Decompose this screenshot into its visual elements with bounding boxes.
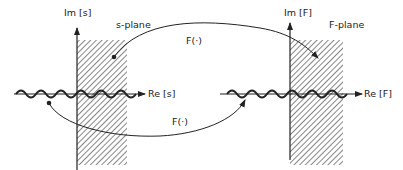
f-plane-shaded-region — [290, 40, 343, 165]
f-plane-title: F-plane — [329, 20, 364, 30]
f-plane-im-axis-label: Im [F] — [284, 8, 312, 18]
mapping-label-lower: F(·) — [172, 117, 188, 127]
s-plane — [14, 28, 145, 170]
s-plane-shaded-region — [77, 40, 127, 165]
s-plane-re-axis-label: Re [s] — [148, 89, 175, 99]
f-plane-re-axis-label: Re [F] — [364, 89, 392, 99]
s-plane-title: s-plane — [116, 20, 151, 30]
f-plane — [220, 23, 362, 165]
mapping-label-upper: F(·) — [186, 36, 202, 46]
s-plane-im-axis-label: Im [s] — [64, 8, 91, 18]
mapping-diagram: Im [s] s-plane Re [s] Im [F] F-plane Re … — [0, 0, 403, 170]
